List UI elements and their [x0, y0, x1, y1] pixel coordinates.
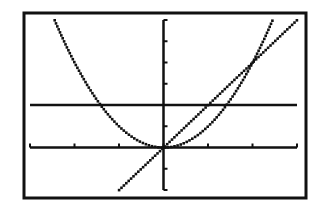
- curve-dot: [248, 65, 251, 68]
- curve-dot: [262, 51, 265, 54]
- curve-dot: [154, 154, 157, 157]
- curve-dot: [125, 131, 128, 134]
- curve-dot: [216, 95, 219, 98]
- curve-dot: [274, 40, 277, 43]
- curve-dot: [73, 61, 76, 64]
- curve-dot: [83, 78, 86, 81]
- curve-dot: [226, 86, 229, 89]
- curve-dot: [202, 130, 205, 133]
- curve-dot: [231, 81, 234, 84]
- curve-dot: [243, 76, 246, 79]
- curve-dot: [209, 123, 212, 126]
- curve-dot: [218, 114, 221, 117]
- curve-dot: [236, 76, 239, 79]
- curve-dot: [240, 72, 243, 75]
- curve-dot: [97, 100, 100, 103]
- curve-dot: [185, 141, 188, 144]
- curve-dot: [224, 106, 227, 109]
- curve-dot: [75, 64, 78, 67]
- curve-dot: [183, 127, 186, 130]
- curve-dot: [288, 26, 291, 29]
- curve-dot: [70, 55, 73, 58]
- curve-dot: [267, 47, 270, 50]
- curve-dot: [179, 143, 182, 146]
- curve-dot: [151, 145, 154, 148]
- curve-dot: [105, 111, 108, 114]
- curve-dot: [182, 142, 185, 145]
- curve-dot: [191, 137, 194, 140]
- curve-dot: [171, 138, 174, 141]
- curve-dot: [260, 44, 263, 47]
- curve-dot: [111, 118, 114, 121]
- curve-dot: [66, 46, 69, 49]
- curve-dot: [270, 23, 273, 26]
- curve-dot: [252, 60, 255, 63]
- curve-dot: [222, 109, 225, 112]
- curve-dot: [125, 182, 128, 185]
- curve-dot: [245, 67, 248, 70]
- curve-dot: [69, 52, 72, 55]
- curve-dot: [259, 47, 262, 50]
- curve-dot: [161, 148, 164, 151]
- curve-dot: [204, 128, 207, 131]
- curve-dot: [91, 92, 94, 95]
- curve-dot: [64, 43, 67, 46]
- curve-dot: [257, 50, 260, 53]
- curve-dot: [233, 79, 236, 82]
- curve-dot: [123, 184, 126, 187]
- curve-dot: [93, 95, 96, 98]
- curve-dot: [139, 140, 142, 143]
- curve-dot: [79, 72, 82, 75]
- curve-dot: [59, 31, 62, 34]
- curve-dot: [200, 111, 203, 114]
- curve-dot: [269, 44, 272, 47]
- curve-dot: [142, 142, 145, 145]
- curve-dot: [56, 25, 59, 28]
- curve-dot: [170, 146, 173, 149]
- curve-dot: [176, 144, 179, 147]
- curve-dot: [266, 32, 269, 35]
- curve-dot: [197, 134, 200, 137]
- curve-dot: [130, 135, 133, 138]
- curve-dot: [120, 127, 123, 130]
- curve-dot: [144, 164, 147, 167]
- curve-dot: [260, 53, 263, 56]
- curve-dot: [89, 89, 92, 92]
- curve-dot: [81, 75, 84, 78]
- curve-dot: [190, 120, 193, 123]
- curve-dot: [123, 129, 126, 132]
- curve-dot: [135, 173, 138, 176]
- curve-dot: [188, 122, 191, 125]
- curve-dot: [268, 26, 271, 29]
- curve-dot: [238, 84, 241, 87]
- curve-dot: [242, 79, 245, 82]
- curve-dot: [206, 125, 209, 128]
- curve-dot: [145, 143, 148, 146]
- curve-dot: [148, 144, 151, 147]
- curve-dot: [159, 150, 162, 153]
- curve-dot: [173, 145, 176, 148]
- curve-dot: [229, 98, 232, 101]
- curve-dot: [215, 116, 218, 119]
- curve-dot: [271, 19, 274, 22]
- curve-dot: [214, 97, 217, 100]
- curve-dot: [276, 37, 279, 40]
- curve-dot: [57, 28, 60, 31]
- curve-dot: [72, 58, 75, 61]
- curve-dot: [107, 113, 110, 116]
- curve-dot: [156, 152, 159, 155]
- curve-dot: [235, 90, 238, 93]
- curve-dot: [195, 115, 198, 118]
- curve-dot: [130, 177, 133, 180]
- function-graph: [0, 0, 322, 216]
- curve-dot: [167, 146, 170, 149]
- curve-dot: [173, 136, 176, 139]
- curve-dot: [264, 49, 267, 52]
- curve-dot: [220, 111, 223, 114]
- curve-dot: [231, 95, 234, 98]
- curve-dot: [164, 145, 167, 148]
- curve-dot: [272, 42, 275, 45]
- curve-dot: [109, 116, 112, 119]
- curve-dot: [95, 97, 98, 100]
- curve-dot: [243, 70, 246, 73]
